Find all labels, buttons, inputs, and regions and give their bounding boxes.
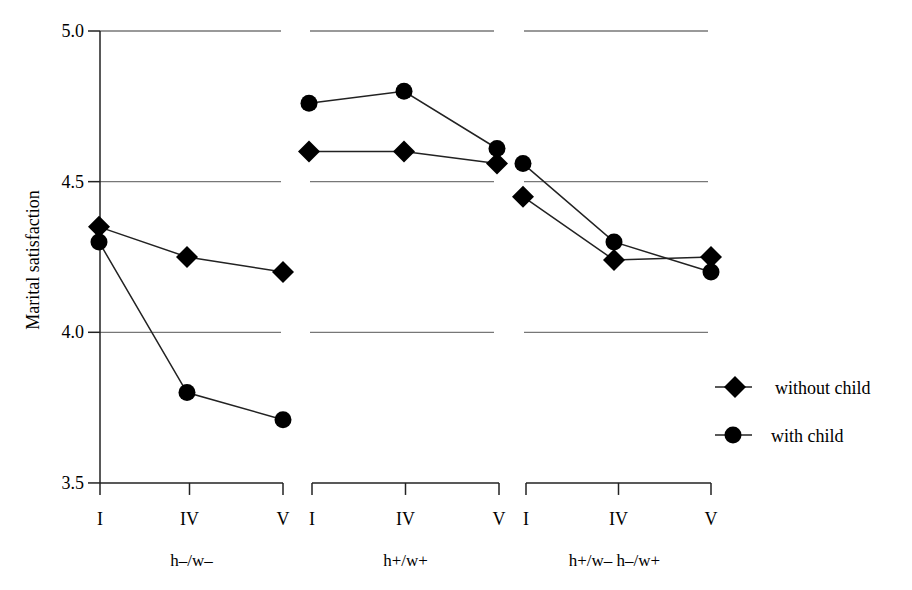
circle-marker xyxy=(396,83,413,100)
diamond-marker xyxy=(272,261,294,283)
circle-marker xyxy=(515,155,532,172)
circle-marker xyxy=(606,233,623,250)
gridlines xyxy=(100,31,708,332)
series-line xyxy=(309,91,497,148)
x-category-label: IV xyxy=(180,509,199,529)
x-category-label: IV xyxy=(609,509,628,529)
y-tick-label: 4.0 xyxy=(62,322,85,342)
x-category-label: IV xyxy=(396,509,415,529)
group-label: h+/w– h–/w+ xyxy=(569,551,660,570)
y-tick-label: 4.5 xyxy=(62,172,85,192)
data-series xyxy=(88,83,722,428)
axis-labels: 3.54.04.55.0IIVVh–/w–IIVVh+/w+IIVVh+/w– … xyxy=(23,21,718,570)
group-label: h–/w– xyxy=(170,551,213,570)
group-label: h+/w+ xyxy=(383,551,428,570)
diamond-marker xyxy=(512,186,534,208)
circle-marker xyxy=(179,384,196,401)
x-category-label: V xyxy=(493,509,506,529)
x-category-label: I xyxy=(309,509,315,529)
circle-marker xyxy=(703,264,720,281)
circle-marker xyxy=(275,411,292,428)
x-category-label: V xyxy=(705,509,718,529)
series-line xyxy=(523,197,711,260)
legend: without childwith child xyxy=(715,376,871,446)
circle-marker xyxy=(725,427,742,444)
marital-satisfaction-chart: 3.54.04.55.0IIVVh–/w–IIVVh+/w+IIVVh+/w– … xyxy=(0,0,912,590)
diamond-marker xyxy=(393,141,415,163)
legend-label: without child xyxy=(775,378,871,398)
diamond-marker xyxy=(298,141,320,163)
circle-marker xyxy=(301,95,318,112)
diamond-marker xyxy=(176,246,198,268)
diamond-marker xyxy=(724,376,746,398)
y-axis-label: Marital satisfaction xyxy=(23,190,43,329)
legend-label: with child xyxy=(771,426,844,446)
y-tick-label: 3.5 xyxy=(62,473,85,493)
x-category-label: I xyxy=(523,509,529,529)
x-category-label: V xyxy=(277,509,290,529)
circle-marker xyxy=(91,233,108,250)
diamond-marker xyxy=(603,249,625,271)
circle-marker xyxy=(489,140,506,157)
x-category-label: I xyxy=(97,509,103,529)
y-tick-label: 5.0 xyxy=(62,21,85,41)
series-line xyxy=(99,227,283,272)
